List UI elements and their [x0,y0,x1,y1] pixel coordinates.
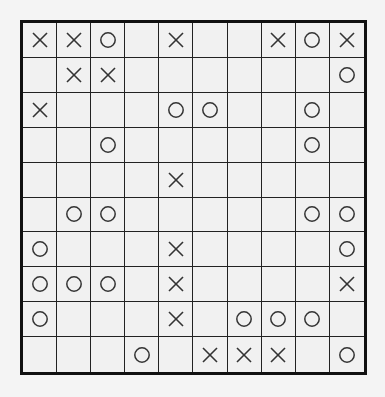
grid-cell-r0-c5[interactable] [193,23,227,58]
grid-cell-r3-c0[interactable] [23,128,57,163]
grid-cell-r9-c8[interactable] [296,337,330,372]
grid-cell-r3-c8[interactable] [296,128,330,163]
grid-cell-r7-c2[interactable] [91,267,125,302]
grid-cell-r3-c1[interactable] [57,128,91,163]
grid-cell-r0-c1[interactable] [57,23,91,58]
grid-cell-r5-c7[interactable] [262,198,296,233]
grid-cell-r4-c9[interactable] [330,163,364,198]
grid-cell-r5-c9[interactable] [330,198,364,233]
grid-cell-r4-c7[interactable] [262,163,296,198]
grid-cell-r9-c9[interactable] [330,337,364,372]
grid-cell-r8-c1[interactable] [57,302,91,337]
grid-cell-r4-c5[interactable] [193,163,227,198]
grid-cell-r1-c1[interactable] [57,58,91,93]
grid-cell-r5-c4[interactable] [159,198,193,233]
grid-cell-r3-c6[interactable] [228,128,262,163]
grid-cell-r8-c3[interactable] [125,302,159,337]
grid-cell-r1-c6[interactable] [228,58,262,93]
grid-cell-r4-c6[interactable] [228,163,262,198]
grid-cell-r7-c5[interactable] [193,267,227,302]
grid-cell-r9-c3[interactable] [125,337,159,372]
grid-cell-r3-c3[interactable] [125,128,159,163]
grid-cell-r5-c6[interactable] [228,198,262,233]
grid-cell-r8-c5[interactable] [193,302,227,337]
grid-cell-r5-c1[interactable] [57,198,91,233]
grid-cell-r1-c8[interactable] [296,58,330,93]
grid-cell-r2-c6[interactable] [228,93,262,128]
grid-cell-r2-c7[interactable] [262,93,296,128]
grid-cell-r2-c8[interactable] [296,93,330,128]
grid-cell-r3-c5[interactable] [193,128,227,163]
grid-cell-r1-c5[interactable] [193,58,227,93]
grid-cell-r6-c1[interactable] [57,232,91,267]
grid-cell-r8-c2[interactable] [91,302,125,337]
grid-cell-r5-c5[interactable] [193,198,227,233]
grid-cell-r3-c9[interactable] [330,128,364,163]
grid-cell-r9-c2[interactable] [91,337,125,372]
grid-cell-r9-c7[interactable] [262,337,296,372]
grid-cell-r3-c2[interactable] [91,128,125,163]
grid-cell-r8-c8[interactable] [296,302,330,337]
grid-cell-r1-c0[interactable] [23,58,57,93]
grid-cell-r1-c9[interactable] [330,58,364,93]
grid-cell-r0-c0[interactable] [23,23,57,58]
grid-cell-r0-c2[interactable] [91,23,125,58]
grid-cell-r8-c7[interactable] [262,302,296,337]
grid-cell-r7-c8[interactable] [296,267,330,302]
grid-cell-r8-c0[interactable] [23,302,57,337]
grid-cell-r0-c3[interactable] [125,23,159,58]
grid-cell-r2-c9[interactable] [330,93,364,128]
grid-cell-r6-c8[interactable] [296,232,330,267]
grid-cell-r4-c1[interactable] [57,163,91,198]
grid-cell-r5-c3[interactable] [125,198,159,233]
grid-cell-r4-c3[interactable] [125,163,159,198]
grid-cell-r7-c1[interactable] [57,267,91,302]
grid-cell-r1-c7[interactable] [262,58,296,93]
grid-cell-r7-c3[interactable] [125,267,159,302]
grid-cell-r4-c8[interactable] [296,163,330,198]
grid-cell-r1-c3[interactable] [125,58,159,93]
grid-cell-r5-c2[interactable] [91,198,125,233]
grid-cell-r6-c9[interactable] [330,232,364,267]
grid-cell-r8-c9[interactable] [330,302,364,337]
grid-cell-r6-c7[interactable] [262,232,296,267]
grid-cell-r7-c4[interactable] [159,267,193,302]
grid-cell-r9-c0[interactable] [23,337,57,372]
grid-cell-r6-c6[interactable] [228,232,262,267]
grid-cell-r3-c7[interactable] [262,128,296,163]
grid-cell-r5-c8[interactable] [296,198,330,233]
grid-cell-r9-c1[interactable] [57,337,91,372]
grid-cell-r7-c0[interactable] [23,267,57,302]
grid-cell-r7-c9[interactable] [330,267,364,302]
grid-cell-r6-c3[interactable] [125,232,159,267]
grid-cell-r0-c6[interactable] [228,23,262,58]
grid-cell-r0-c4[interactable] [159,23,193,58]
grid-cell-r4-c2[interactable] [91,163,125,198]
grid-cell-r2-c4[interactable] [159,93,193,128]
grid-cell-r2-c0[interactable] [23,93,57,128]
grid-cell-r8-c6[interactable] [228,302,262,337]
grid-cell-r0-c7[interactable] [262,23,296,58]
grid-cell-r3-c4[interactable] [159,128,193,163]
grid-cell-r9-c4[interactable] [159,337,193,372]
grid-cell-r1-c4[interactable] [159,58,193,93]
grid-cell-r8-c4[interactable] [159,302,193,337]
grid-cell-r7-c7[interactable] [262,267,296,302]
grid-cell-r7-c6[interactable] [228,267,262,302]
grid-cell-r6-c5[interactable] [193,232,227,267]
grid-cell-r6-c0[interactable] [23,232,57,267]
grid-cell-r9-c6[interactable] [228,337,262,372]
grid-cell-r2-c3[interactable] [125,93,159,128]
grid-cell-r0-c9[interactable] [330,23,364,58]
grid-cell-r2-c1[interactable] [57,93,91,128]
grid-cell-r4-c4[interactable] [159,163,193,198]
grid-cell-r0-c8[interactable] [296,23,330,58]
grid-cell-r6-c4[interactable] [159,232,193,267]
grid-cell-r6-c2[interactable] [91,232,125,267]
grid-cell-r5-c0[interactable] [23,198,57,233]
grid-cell-r1-c2[interactable] [91,58,125,93]
grid-cell-r2-c5[interactable] [193,93,227,128]
grid-cell-r2-c2[interactable] [91,93,125,128]
grid-cell-r9-c5[interactable] [193,337,227,372]
grid-cell-r4-c0[interactable] [23,163,57,198]
